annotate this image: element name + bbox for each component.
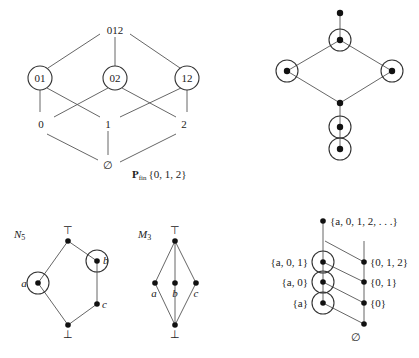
node-012: 012 — [107, 24, 124, 36]
infinite-top: {a, 0, 1, 2, . . .} — [330, 215, 398, 227]
lattice-node — [337, 124, 343, 130]
powerset-caption: Pfin{0, 1, 2} — [132, 168, 187, 182]
infinite-left-0: {a, 0, 1} — [271, 256, 308, 268]
lattice-node — [337, 100, 343, 106]
lattice-node — [337, 10, 343, 16]
chain-lattice-diagram — [276, 10, 403, 160]
m3-title: M3 — [137, 228, 151, 242]
infinite-bottom: ∅ — [351, 331, 361, 343]
n5-a: a — [21, 277, 27, 289]
node-empty: ∅ — [103, 159, 113, 171]
n5-bottom: ⊥ — [63, 328, 73, 340]
m3-a: a — [151, 287, 157, 299]
n5-title: N5 — [13, 228, 25, 242]
n5-b: b — [103, 254, 109, 266]
infinite-right-1: {0, 1} — [370, 276, 397, 288]
powerset-diagram: 012 01 02 12 0 1 2 ∅ Pfin{0, 1, 2} — [28, 24, 199, 182]
m3-c: c — [194, 287, 199, 299]
node-1: 1 — [105, 118, 111, 130]
infinite-right-2: {0} — [370, 297, 386, 309]
node-2: 2 — [181, 118, 187, 130]
n5-c: c — [102, 298, 107, 310]
lattice-node — [389, 68, 395, 74]
infinite-lattice-diagram: {a, 0, 1, 2, . . .} {a, 0, 1} {a, 0} {a}… — [271, 215, 409, 343]
infinite-right-0: {0, 1, 2} — [370, 256, 408, 268]
m3-b: b — [172, 287, 178, 299]
lattice-node — [284, 68, 290, 74]
n5-top: ⊤ — [63, 224, 73, 236]
infinite-left-1: {a, 0} — [282, 276, 308, 288]
m3-bottom: ⊥ — [170, 328, 180, 340]
m3-top: ⊤ — [170, 224, 180, 236]
m3-diagram: M3 ⊤ ⊥ a b c — [137, 224, 199, 340]
node-12: 12 — [182, 72, 193, 84]
n5-diagram: N5 ⊤ ⊥ a b c — [13, 224, 109, 340]
infinite-left-2: {a} — [293, 297, 308, 309]
node-02: 02 — [110, 72, 121, 84]
node-01: 01 — [35, 72, 46, 84]
lattice-figure: 012 01 02 12 0 1 2 ∅ Pfin{0, 1, 2} N5 — [0, 0, 419, 358]
lattice-node — [337, 37, 343, 43]
lattice-node — [337, 146, 343, 152]
node-0: 0 — [38, 118, 44, 130]
